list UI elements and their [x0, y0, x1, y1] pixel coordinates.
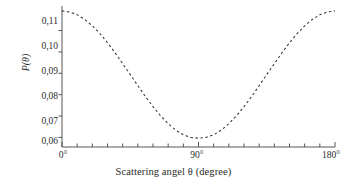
y-tick-marks	[59, 31, 63, 138]
scattering-phase-function-chart: P(θ) 0,11 0,10 0,09 0,08 0,07 0,06 0° 90…	[0, 0, 347, 186]
plot-canvas	[0, 0, 347, 186]
x-tick-marks	[62, 142, 335, 147]
axis-spines	[62, 6, 335, 147]
data-series-curve	[62, 11, 335, 138]
